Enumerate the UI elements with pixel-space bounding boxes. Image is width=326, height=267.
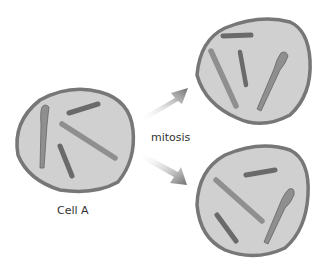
cell-membrane <box>197 19 310 123</box>
cell-membrane <box>17 89 133 191</box>
parent-cell-label: Cell A <box>57 204 89 217</box>
chromosome <box>223 35 251 36</box>
arrow-to-bottom-daughter <box>140 153 187 185</box>
cell-a <box>17 89 133 191</box>
arrow-to-top-daughter <box>140 88 188 122</box>
daughter-cell-bottom <box>197 146 308 256</box>
daughter-cell-top <box>197 19 310 123</box>
process-label: mitosis <box>151 131 190 144</box>
